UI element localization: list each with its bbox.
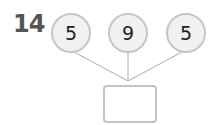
- answer-box[interactable]: [103, 85, 157, 123]
- number-circle-1: 5: [51, 13, 91, 53]
- number-circle-2: 9: [108, 13, 148, 53]
- number-circle-3: 5: [166, 13, 206, 53]
- number-value: 5: [65, 22, 77, 44]
- number-value: 5: [180, 22, 192, 44]
- number-value: 9: [122, 22, 134, 44]
